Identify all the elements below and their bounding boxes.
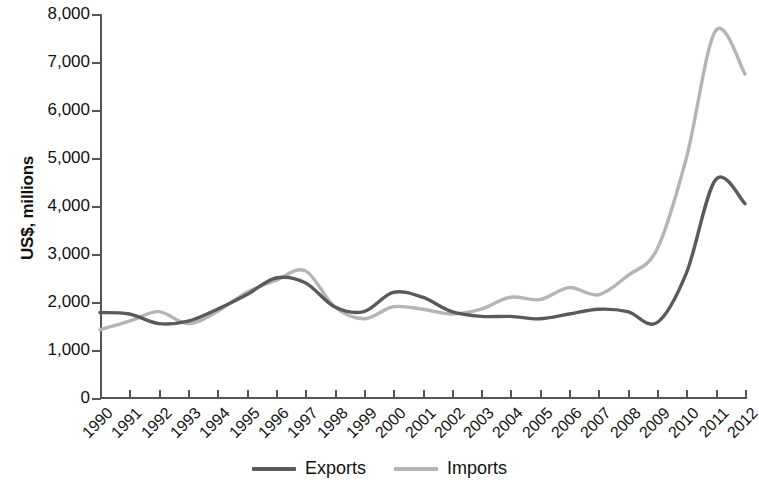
y-tick-label: 3,000 — [22, 244, 90, 264]
plot-area — [100, 14, 745, 398]
x-tick-mark — [745, 390, 747, 399]
y-axis-tick-labels: 8,0007,0006,0005,0004,0003,0002,0001,000… — [12, 0, 90, 487]
legend-label: Imports — [447, 458, 507, 479]
series-lines — [100, 14, 745, 398]
legend-label: Exports — [305, 458, 366, 479]
legend-swatch-icon — [394, 467, 438, 471]
y-tick-label: 2,000 — [22, 292, 90, 312]
y-tick-label: 4,000 — [22, 196, 90, 216]
y-tick-label: 1,000 — [22, 340, 90, 360]
series-line-exports — [100, 177, 745, 324]
y-tick-label: 8,000 — [22, 4, 90, 24]
legend-item-exports[interactable]: Exports — [252, 458, 366, 479]
y-tick-label: 0 — [22, 388, 90, 408]
legend-swatch-icon — [252, 467, 296, 471]
chart-legend: ExportsImports — [0, 458, 759, 479]
line-chart: US$, millions 8,0007,0006,0005,0004,0003… — [0, 0, 759, 487]
y-tick-label: 7,000 — [22, 52, 90, 72]
legend-item-imports[interactable]: Imports — [394, 458, 507, 479]
y-tick-label: 6,000 — [22, 100, 90, 120]
series-line-imports — [100, 28, 745, 330]
y-tick-label: 5,000 — [22, 148, 90, 168]
